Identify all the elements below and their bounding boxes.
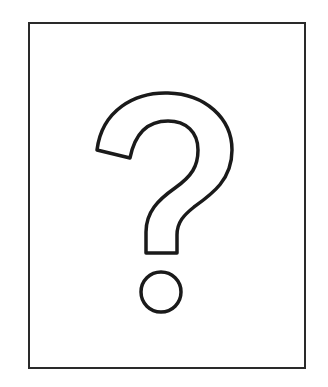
question-mark-hook [97,93,232,253]
question-mark-icon [0,0,328,387]
question-mark-dot [141,272,181,312]
